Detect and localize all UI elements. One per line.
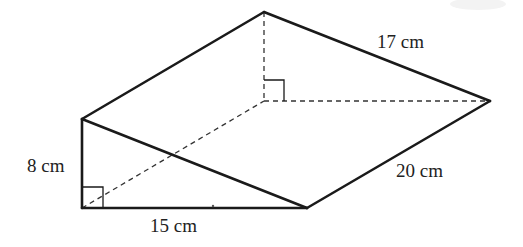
label-length: 20 cm [396, 160, 443, 181]
edge-bottom-right-length [307, 101, 490, 208]
right-angle-marker-back [264, 80, 284, 101]
edge-back-hypotenuse [264, 12, 490, 101]
label-base: 15 cm [150, 215, 197, 236]
edge-front-hypotenuse [82, 119, 307, 208]
edge-top-length [82, 12, 264, 119]
scan-smudge [450, 0, 506, 10]
label-hypotenuse: 17 cm [377, 31, 424, 52]
label-height: 8 cm [27, 155, 65, 176]
base-mark [212, 205, 214, 207]
prism-diagram: 8 cm 15 cm 17 cm 20 cm [0, 0, 523, 247]
